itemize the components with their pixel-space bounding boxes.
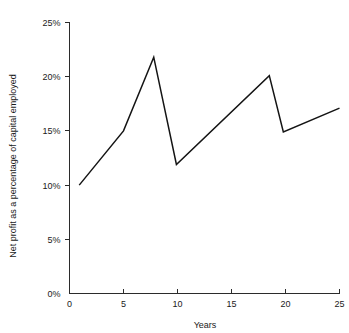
y-axis-tick-label: 10%: [42, 181, 60, 191]
x-axis-tick-label: 10: [172, 299, 182, 309]
y-axis-tick-label: 25%: [42, 18, 60, 28]
y-axis-tick-label: 5%: [47, 235, 60, 245]
y-axis: 0%5%10%15%20%25%: [42, 18, 69, 299]
chart-container: 0%5%10%15%20%25% 0510152025 Net profit a…: [0, 0, 349, 333]
y-axis-tick-label: 20%: [42, 72, 60, 82]
x-axis-tick-label: 25: [334, 299, 344, 309]
x-axis-tick-label: 0: [67, 299, 72, 309]
line-chart: 0%5%10%15%20%25% 0510152025 Net profit a…: [0, 0, 349, 333]
x-axis-tick-label: 5: [121, 299, 126, 309]
x-axis-tick-label: 15: [226, 299, 236, 309]
data-series-group: [79, 57, 339, 185]
y-axis-title: Net profit as a percentage of capital em…: [8, 74, 18, 258]
x-axis: 0510152025: [67, 289, 345, 309]
y-axis-tick-label: 15%: [42, 126, 60, 136]
series-line-net-profit: [79, 57, 339, 185]
y-axis-tick-label: 0%: [47, 289, 60, 299]
x-axis-title: Years: [194, 320, 217, 330]
x-axis-tick-label: 20: [280, 299, 290, 309]
